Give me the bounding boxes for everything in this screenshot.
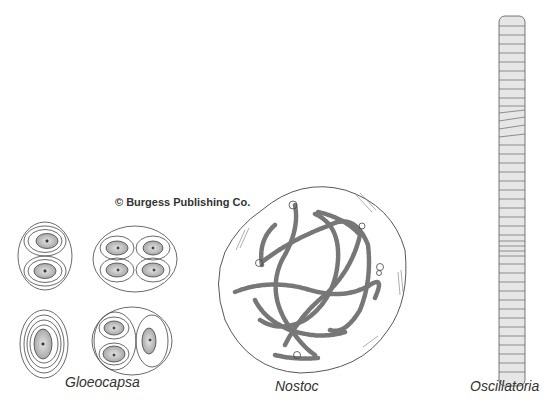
label-gloeocapsa: Gloeocapsa: [65, 374, 140, 390]
label-nostoc: Nostoc: [275, 378, 319, 394]
gloeocapsa-colony-four-cell: [93, 226, 177, 292]
nostoc-colony: [219, 187, 406, 373]
gloeocapsa-single-cell: [20, 310, 68, 378]
illustration-canvas: [0, 0, 552, 404]
oscillatoria-filament: [499, 16, 525, 386]
gloeocapsa-colony-three-cell: [92, 307, 172, 375]
gloeocapsa-colony-two-cell: [18, 222, 72, 290]
copyright-notice: © Burgess Publishing Co.: [115, 196, 250, 208]
label-oscillatoria: Oscillatoria: [470, 378, 539, 394]
